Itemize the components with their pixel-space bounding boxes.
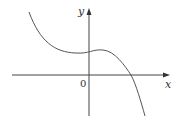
origin-label: 0 xyxy=(80,78,86,89)
y-axis-arrow xyxy=(87,8,92,15)
x-axis-arrow xyxy=(163,73,170,78)
x-axis-label: x xyxy=(165,78,172,91)
graph: y x 0 xyxy=(0,0,179,123)
y-axis-label: y xyxy=(77,5,85,18)
function-curve xyxy=(29,12,145,116)
